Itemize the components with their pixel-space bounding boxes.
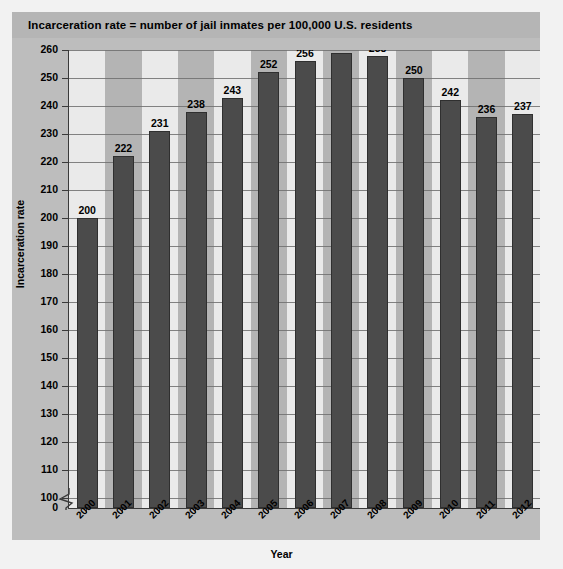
y-axis-tick-label: 180 xyxy=(12,267,58,279)
y-axis-tick-label: 120 xyxy=(12,435,58,447)
bar[interactable] xyxy=(222,98,243,508)
bar[interactable] xyxy=(367,56,388,508)
y-axis-tick-label: 130 xyxy=(12,407,58,419)
x-axis-title: Year xyxy=(0,548,563,560)
bar[interactable] xyxy=(476,117,497,508)
y-axis-tick-label: 150 xyxy=(12,351,58,363)
y-axis-tick-label: 240 xyxy=(12,99,58,111)
y-axis-tick-label: 260 xyxy=(12,43,58,55)
bar-value-label: 200 xyxy=(71,204,103,216)
chart-title: Incarceration rate = number of jail inma… xyxy=(28,19,412,31)
bar-value-label: 252 xyxy=(253,58,285,70)
bar-value-label: 236 xyxy=(471,103,503,115)
bar[interactable] xyxy=(77,218,98,508)
y-axis-tick-label: 110 xyxy=(12,463,58,475)
bar-value-label: 242 xyxy=(434,86,466,98)
bar-value-label: 231 xyxy=(144,117,176,129)
bar[interactable] xyxy=(113,156,134,508)
bar[interactable] xyxy=(295,61,316,508)
bar-series: 200222231238243252256259258250242236237 xyxy=(69,50,540,508)
y-axis-tick-label: 160 xyxy=(12,323,58,335)
plot-area: 200222231238243252256259258250242236237 xyxy=(68,50,540,508)
y-axis: 0100110120130140150160170180190200210220… xyxy=(0,0,70,528)
bar-value-label: 250 xyxy=(398,64,430,76)
bar-value-label: 258 xyxy=(362,50,394,54)
y-axis-tick-label: 190 xyxy=(12,239,58,251)
chart-title-banner: Incarceration rate = number of jail inma… xyxy=(12,12,540,38)
bar-value-label: 243 xyxy=(216,84,248,96)
y-axis-tick-label: 220 xyxy=(12,155,58,167)
bar-value-label: 256 xyxy=(289,50,321,59)
y-axis-tick-label: 250 xyxy=(12,71,58,83)
chart-figure: Incarceration rate = number of jail inma… xyxy=(0,0,563,569)
bar[interactable] xyxy=(258,72,279,508)
y-axis-tick-label: 230 xyxy=(12,127,58,139)
bar[interactable] xyxy=(440,100,461,508)
x-axis-tick-labels: 2000200120022003200420052006200720082009… xyxy=(68,509,540,549)
bar[interactable] xyxy=(186,112,207,508)
bar[interactable] xyxy=(149,131,170,508)
bar-value-label: 259 xyxy=(325,50,357,51)
bar-value-label: 238 xyxy=(180,98,212,110)
bar[interactable] xyxy=(512,114,533,508)
bar-value-label: 222 xyxy=(107,142,139,154)
y-axis-tick-label: 140 xyxy=(12,379,58,391)
bar[interactable] xyxy=(403,78,424,508)
bar-value-label: 237 xyxy=(507,100,539,112)
y-axis-tick-label: 170 xyxy=(12,295,58,307)
bar[interactable] xyxy=(331,53,352,508)
y-axis-tick-label: 210 xyxy=(12,183,58,195)
y-axis-tick-label: 100 xyxy=(12,491,58,503)
axis-break-icon xyxy=(56,488,76,510)
y-axis-tick-label: 200 xyxy=(12,211,58,223)
